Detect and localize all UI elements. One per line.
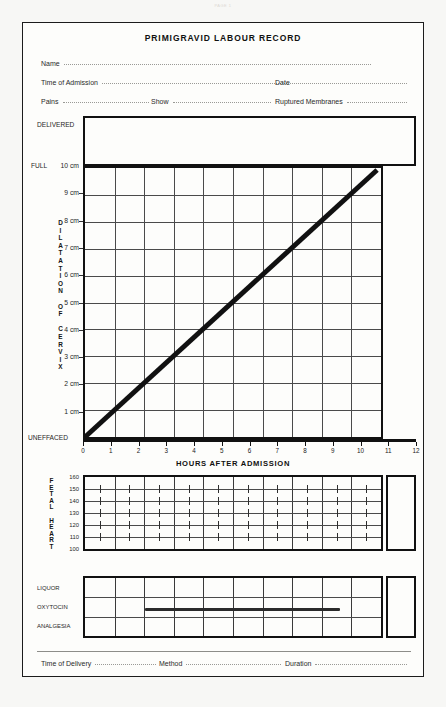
y-tick-label: 4 cm bbox=[43, 326, 79, 333]
x-tick-label: 0 bbox=[75, 447, 91, 454]
field-ruptured-membranes-input[interactable] bbox=[347, 97, 407, 103]
y-tick-label: 1 cm bbox=[43, 408, 79, 415]
fh-minor-tick bbox=[366, 485, 367, 493]
x-tick bbox=[250, 442, 251, 446]
fh-minor-tick bbox=[100, 497, 101, 505]
obs-grid-vline bbox=[144, 578, 145, 636]
field-duration-input[interactable] bbox=[315, 659, 407, 665]
y-tick-label: 9 cm bbox=[43, 189, 79, 196]
field-show[interactable]: Show bbox=[151, 97, 271, 105]
x-tick-label: 10 bbox=[353, 447, 369, 454]
caption-letter: O bbox=[56, 280, 65, 288]
fh-minor-tick bbox=[189, 485, 190, 493]
fh-minor-tick bbox=[129, 521, 130, 529]
x-tick bbox=[305, 442, 306, 446]
fh-minor-tick bbox=[277, 509, 278, 517]
fh-tick-label: 120 bbox=[59, 522, 79, 528]
field-name[interactable]: Name bbox=[41, 59, 371, 67]
fh-minor-tick bbox=[100, 533, 101, 541]
x-tick bbox=[333, 442, 334, 446]
fetal-heart-caption: FETAL HEART bbox=[47, 478, 56, 551]
field-duration[interactable]: Duration bbox=[285, 659, 407, 667]
delivered-label: DELIVERED bbox=[37, 121, 74, 128]
obs-grid-vline bbox=[115, 578, 116, 636]
field-ruptured-membranes-label: Ruptured Membranes bbox=[275, 98, 343, 105]
fh-minor-tick bbox=[129, 533, 130, 541]
fh-minor-tick bbox=[366, 509, 367, 517]
fh-minor-tick bbox=[189, 521, 190, 529]
footer-divider bbox=[37, 651, 411, 652]
page-mark: PAGE 1 bbox=[0, 3, 446, 8]
field-time-of-delivery-input[interactable] bbox=[95, 659, 156, 665]
field-method[interactable]: Method bbox=[159, 659, 281, 667]
x-tick bbox=[139, 442, 140, 446]
fh-minor-tick bbox=[366, 521, 367, 529]
field-pains-input[interactable] bbox=[63, 97, 149, 103]
x-tick-label: 8 bbox=[297, 447, 313, 454]
y-tick-label: 8 cm bbox=[43, 217, 79, 224]
fh-minor-tick bbox=[337, 497, 338, 505]
fh-minor-tick bbox=[159, 533, 160, 541]
fh-minor-tick bbox=[100, 485, 101, 493]
fh-minor-tick bbox=[159, 521, 160, 529]
x-tick bbox=[166, 442, 167, 446]
fetal-heart-notes-box[interactable] bbox=[386, 475, 416, 551]
fh-tick-label: 130 bbox=[59, 510, 79, 516]
fh-minor-tick bbox=[337, 521, 338, 529]
fh-minor-tick bbox=[248, 497, 249, 505]
fh-minor-tick bbox=[307, 533, 308, 541]
fh-minor-tick bbox=[100, 509, 101, 517]
observations-grid[interactable] bbox=[83, 576, 383, 638]
x-tick-label: 4 bbox=[186, 447, 202, 454]
x-tick-label: 2 bbox=[131, 447, 147, 454]
obs-grid-vline bbox=[292, 578, 293, 636]
field-time-of-admission-label: Time of Admission bbox=[41, 79, 98, 86]
fh-minor-tick bbox=[337, 509, 338, 517]
fetal-heart-panel: FETAL HEART 160150140130120110100 bbox=[23, 475, 425, 555]
field-show-input[interactable] bbox=[173, 97, 271, 103]
partogram-panel: DELIVERED FULL UNEFFACED DILATATION OF C… bbox=[23, 111, 425, 411]
fh-minor-tick bbox=[218, 509, 219, 517]
x-tick-label: 1 bbox=[103, 447, 119, 454]
field-method-label: Method bbox=[159, 660, 182, 667]
x-axis-title: HOURS AFTER ADMISSION bbox=[83, 459, 383, 468]
fh-tick-label: 100 bbox=[59, 546, 79, 552]
field-ruptured-membranes[interactable]: Ruptured Membranes bbox=[275, 97, 407, 105]
caption-letter: E bbox=[56, 333, 65, 341]
obs-grid-vline bbox=[174, 578, 175, 636]
field-date-input[interactable] bbox=[294, 78, 407, 84]
x-tick-label: 12 bbox=[408, 447, 424, 454]
fh-minor-tick bbox=[218, 485, 219, 493]
obs-grid-hline bbox=[85, 617, 381, 618]
field-name-input[interactable] bbox=[64, 59, 371, 65]
obs-row-label: ANALGESIA bbox=[37, 623, 70, 629]
field-time-of-delivery[interactable]: Time of Delivery bbox=[41, 659, 156, 667]
field-date[interactable]: Date bbox=[275, 78, 407, 86]
fh-minor-tick bbox=[277, 521, 278, 529]
fetal-heart-grid[interactable] bbox=[83, 475, 383, 551]
caption-letter: T bbox=[47, 544, 56, 551]
fh-minor-tick bbox=[307, 485, 308, 493]
caption-letter: A bbox=[56, 257, 65, 265]
fh-tick-label: 110 bbox=[59, 534, 79, 540]
fh-tick-label: 160 bbox=[59, 474, 79, 480]
x-tick bbox=[416, 442, 417, 446]
obs-grid-hline bbox=[85, 597, 381, 598]
field-pains[interactable]: Pains bbox=[41, 97, 149, 105]
y-tick-label: 6 cm bbox=[43, 271, 79, 278]
labour-record-sheet: PRIMIGRAVID LABOUR RECORD Name Time of A… bbox=[22, 22, 424, 677]
observations-notes-box[interactable] bbox=[386, 576, 416, 638]
fh-minor-tick bbox=[307, 497, 308, 505]
fh-minor-tick bbox=[307, 521, 308, 529]
caption-letter: F bbox=[56, 310, 65, 318]
oxytocin-bar bbox=[145, 608, 340, 611]
uneffaced-label: UNEFFACED bbox=[28, 434, 68, 441]
field-method-input[interactable] bbox=[186, 659, 281, 665]
fh-minor-tick bbox=[337, 533, 338, 541]
fh-minor-tick bbox=[218, 521, 219, 529]
field-pains-label: Pains bbox=[41, 98, 59, 105]
obs-grid-vline bbox=[203, 578, 204, 636]
observations-panel: LIQUOROXYTOCINANALGESIA bbox=[23, 576, 425, 642]
delivered-box[interactable] bbox=[83, 116, 416, 166]
partogram-grid[interactable] bbox=[83, 166, 383, 439]
